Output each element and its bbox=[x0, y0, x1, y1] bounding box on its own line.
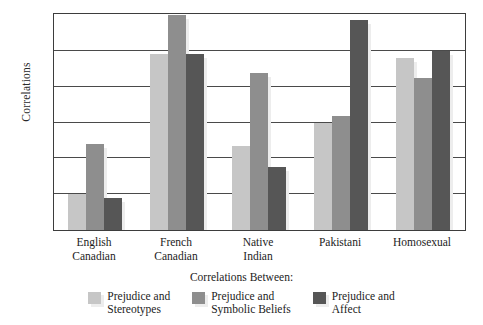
bar bbox=[350, 20, 368, 230]
x-axis-category-line: Native bbox=[217, 236, 299, 250]
bar bbox=[150, 54, 168, 230]
bar-group bbox=[218, 14, 300, 230]
bar-face bbox=[232, 146, 250, 230]
legend-label-line: Prejudice and bbox=[332, 290, 395, 303]
x-axis-category-line: Canadian bbox=[53, 250, 135, 264]
bar bbox=[396, 58, 414, 230]
x-axis-category-line: Indian bbox=[217, 250, 299, 264]
bar-face bbox=[332, 116, 350, 230]
legend-item[interactable]: Prejudice andAffect bbox=[313, 290, 395, 316]
legend-swatch bbox=[313, 292, 326, 304]
bar-face bbox=[414, 78, 432, 230]
x-axis-category-label: FrenchCanadian bbox=[135, 236, 217, 263]
legend-item[interactable]: Prejudice andSymbolic Beliefs bbox=[192, 290, 291, 316]
bar-group bbox=[54, 14, 136, 230]
bar-face bbox=[186, 54, 204, 230]
legend-swatch-face bbox=[192, 292, 205, 304]
bar bbox=[86, 144, 104, 230]
bar-face bbox=[314, 123, 332, 231]
bar bbox=[414, 78, 432, 230]
bar bbox=[104, 198, 122, 230]
x-axis-category-label: EnglishCanadian bbox=[53, 236, 135, 263]
bar-group bbox=[136, 14, 218, 230]
legend-label-line: Prejudice and bbox=[211, 290, 291, 303]
x-axis-category-label: Homosexual bbox=[381, 236, 463, 250]
bar-face bbox=[350, 20, 368, 230]
legend-label-line: Stereotypes bbox=[107, 303, 170, 316]
legend-label-line: Symbolic Beliefs bbox=[211, 303, 291, 316]
chart-legend: Prejudice andStereotypesPrejudice andSym… bbox=[0, 290, 483, 316]
x-axis-category-label: NativeIndian bbox=[217, 236, 299, 263]
bar bbox=[250, 73, 268, 230]
legend-item[interactable]: Prejudice andStereotypes bbox=[88, 290, 170, 316]
bar bbox=[268, 167, 286, 230]
bar-face bbox=[268, 167, 286, 230]
legend-label-line: Affect bbox=[332, 303, 395, 316]
legend-swatch bbox=[192, 292, 205, 304]
bar-face bbox=[168, 15, 186, 230]
legend-swatch-face bbox=[88, 292, 101, 304]
x-axis-category-line: Homosexual bbox=[381, 236, 463, 250]
bar-face bbox=[150, 54, 168, 230]
x-axis-category-line: English bbox=[53, 236, 135, 250]
plot-area: 00.10.20.30.40.50.6 bbox=[53, 13, 466, 231]
plot-inner: 00.10.20.30.40.50.6 bbox=[54, 14, 465, 230]
legend-label-line: Prejudice and bbox=[107, 290, 170, 303]
x-axis-category-line: Canadian bbox=[135, 250, 217, 264]
legend-swatch-face bbox=[313, 292, 326, 304]
bar bbox=[432, 51, 450, 230]
bar-group bbox=[300, 14, 382, 230]
x-axis-category-line: Pakistani bbox=[299, 236, 381, 250]
bar bbox=[314, 123, 332, 231]
bar bbox=[332, 116, 350, 230]
legend-title: Correlations Between: bbox=[0, 271, 483, 283]
bar-face bbox=[250, 73, 268, 230]
bar-face bbox=[104, 198, 122, 230]
x-axis-category-label: Pakistani bbox=[299, 236, 381, 250]
legend-label: Prejudice andSymbolic Beliefs bbox=[211, 290, 291, 316]
bar bbox=[68, 194, 86, 230]
bar bbox=[232, 146, 250, 230]
y-axis-title: Correlations bbox=[20, 22, 32, 162]
bar-face bbox=[68, 194, 86, 230]
bar-face bbox=[396, 58, 414, 230]
bar-group bbox=[382, 14, 464, 230]
bar-chart-figure: Correlations 00.10.20.30.40.50.6 English… bbox=[0, 0, 483, 325]
bar bbox=[186, 54, 204, 230]
legend-label: Prejudice andStereotypes bbox=[107, 290, 170, 316]
legend-swatch bbox=[88, 292, 101, 304]
x-axis-category-line: French bbox=[135, 236, 217, 250]
bar bbox=[168, 15, 186, 230]
legend-label: Prejudice andAffect bbox=[332, 290, 395, 316]
bar-face bbox=[432, 51, 450, 230]
bar-face bbox=[86, 144, 104, 230]
